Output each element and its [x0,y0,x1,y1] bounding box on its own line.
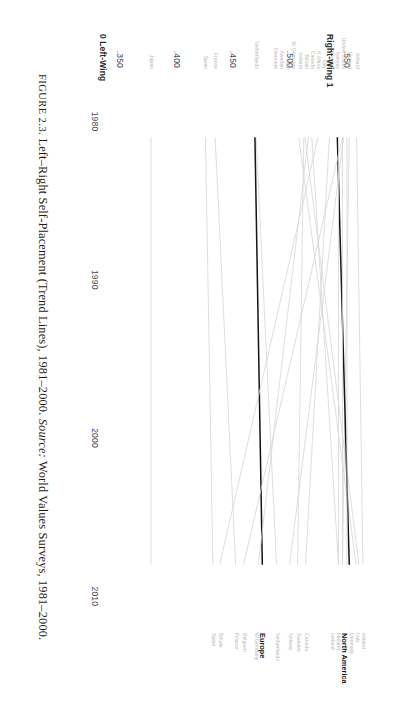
caption-source-text: World Values Surveys, 1981–2000. [36,461,50,640]
series-end-label: Japan [148,55,153,69]
trend-line [305,137,359,564]
caption-figure-number: FIGURE 2.3. [37,74,48,135]
series-end-label: Finland [336,633,341,650]
series-end-label: Belgium [241,633,246,652]
series-end-label: Netherlands [253,41,258,69]
series-end-label: S.Africa [316,51,321,69]
series-end-label: Europe [259,633,266,658]
series-end-label: Sweden [295,633,300,652]
series-end-label: Britain [217,633,222,648]
series-end-label: Sweden [278,50,283,69]
y-axis-caption-low: 0 Left-Wing [98,34,108,81]
series-end-label: Norway [334,51,339,69]
figure-page: .350.400.450.500.550 1980199020002010 Ir… [0,0,398,718]
trend-line [215,137,235,564]
series-end-label: Canada [309,51,314,69]
x-axis-tick-label: 2000 [90,428,100,448]
series-end-label: Norway [287,633,292,651]
series-end-label: Britain [303,54,308,69]
trend-line [357,137,363,564]
series-end-label: Ireland [354,53,359,69]
trend-line [205,137,212,564]
y-axis-tick-label: .450 [228,34,238,68]
series-end-label: Denmark [272,48,277,69]
trend-line [312,137,339,564]
series-end-label: Ireland [360,633,365,649]
series-end-label: United States [340,38,345,69]
series-end-label: Iceland [329,633,334,650]
figure: .350.400.450.500.550 1980199020002010 Ir… [0,0,398,718]
figure-caption: FIGURE 2.3. Left–Right Self-Placement (T… [35,74,50,634]
trend-lines-svg [114,74,372,628]
chart-plot-area [114,74,372,628]
x-axis-tick-label: 1990 [90,270,100,290]
y-axis-tick-label: .350 [115,34,125,68]
series-end-label: Netherlands [274,633,279,661]
series-end-label: North America [341,633,348,684]
series-end-label: France [213,53,218,69]
rotated-figure-container: .350.400.450.500.550 1980199020002010 Ir… [0,0,398,718]
series-end-label: W.Germany [291,42,296,69]
trend-line [306,137,330,564]
x-axis-tick-label: 1980 [90,112,100,132]
y-axis-tick-label: .400 [172,34,182,68]
series-end-label: Italy [354,633,359,643]
series-end-label: Spain [210,633,215,646]
y-axis-caption-high: Right-Wing 1 [325,34,335,88]
series-end-label: Spain [203,56,208,69]
series-end-label: Italy [285,59,290,69]
series-end-label: Canada [303,633,308,651]
caption-title: Left–Right Self-Placement (Trend Lines),… [36,138,50,415]
series-end-label: Finland [347,52,352,69]
series-end-label: France [233,633,238,649]
trend-line [220,137,318,564]
series-end-label: W.Germany [254,633,259,660]
series-end-label: Iceland [297,52,302,69]
caption-source-label: Source: [36,419,50,458]
trend-line [290,137,344,564]
x-axis-tick-label: 2010 [90,586,100,606]
